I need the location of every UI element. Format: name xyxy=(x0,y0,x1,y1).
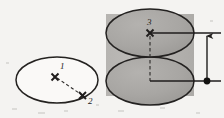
figure-canvas: 1 2 3 xyxy=(0,0,224,118)
cylinder-group: 3 xyxy=(106,9,194,105)
dimension-endpoint-dot xyxy=(204,78,211,85)
point-3-label: 3 xyxy=(146,17,152,27)
point-1-label: 1 xyxy=(60,61,65,71)
point-2-label: 2 xyxy=(88,96,93,106)
geometry-diagram: 1 2 3 xyxy=(0,0,224,118)
base-ellipse-group: 1 2 xyxy=(16,57,98,106)
